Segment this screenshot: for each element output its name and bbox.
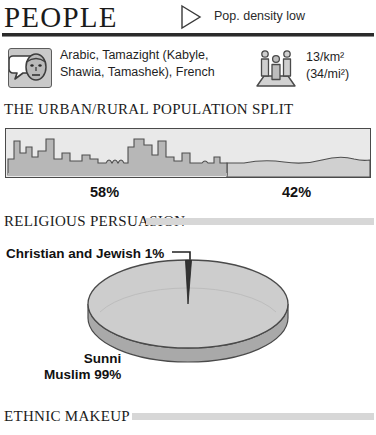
pie-label-major: Sunni Muslim 99% (44, 351, 121, 383)
speech-face-icon (8, 48, 52, 88)
language-density-row: Arabic, Tamazight (Kabyle, Shawia, Tamas… (0, 46, 376, 92)
three-people-icon (252, 46, 300, 90)
triangle-right-icon (178, 4, 204, 30)
people-infographic-page: PEOPLE Pop. density low (0, 0, 376, 435)
section-heading-ethnic: ETHNIC MAKEUP (4, 408, 130, 425)
urban-percentage-label: 58% (90, 184, 119, 200)
urban-rural-chart (5, 128, 371, 178)
section-heading-religion-bar (146, 218, 374, 225)
density-value: 13/km² (34/mi²) (306, 49, 349, 83)
title-rule-shadow (2, 36, 374, 37)
languages-text: Arabic, Tamazight (Kabyle, Shawia, Tamas… (60, 47, 245, 81)
density-flag-label: Pop. density low (214, 9, 305, 23)
page-title: PEOPLE (4, 1, 118, 33)
page-header: PEOPLE Pop. density low (0, 0, 376, 34)
section-heading-ethnic-bar (132, 413, 374, 420)
rural-percentage-label: 42% (282, 184, 311, 200)
section-heading-urban-rural: THE URBAN/RURAL POPULATION SPLIT (4, 101, 293, 118)
